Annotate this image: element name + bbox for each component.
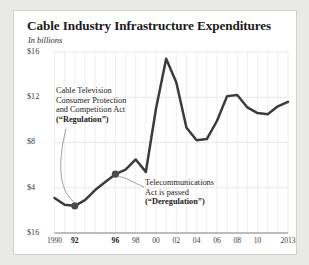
y-axis-tick: $16: [27, 47, 39, 56]
y-axis-tick: $12: [27, 92, 39, 101]
regulation-annotation-line: and Competition Act: [56, 105, 126, 115]
deregulation-leader-line: [119, 177, 144, 187]
x-axis-tick: 00: [152, 236, 160, 245]
x-axis-tick: 2013: [280, 236, 295, 245]
x-axis-tick: 02: [173, 236, 181, 245]
x-axis-tick: 92: [71, 236, 79, 245]
chart-card: Cable Industry Infrastructure Expenditur…: [13, 10, 297, 255]
regulation-annotation: Cable TelevisionConsumer Protectionand C…: [56, 86, 126, 124]
x-axis-tick: 04: [193, 236, 201, 245]
deregulation-annotation-line: Act is passed: [145, 188, 214, 198]
y-axis-tick: $16: [27, 228, 39, 237]
regulation-annotation-line: Cable Television: [56, 86, 126, 96]
y-axis-tick: $8: [27, 137, 35, 146]
x-axis-tick: 1990: [47, 236, 62, 245]
x-axis-tick: 08: [233, 236, 241, 245]
deregulation-annotation: TelecommunicationsAct is passed(“Deregul…: [145, 178, 214, 207]
x-axis-tick: 96: [112, 236, 120, 245]
regulation-annotation-line: Consumer Protection: [56, 96, 126, 106]
x-axis-tick: 06: [213, 236, 221, 245]
regulation-leader-line: [61, 129, 74, 202]
deregulation-annotation-line: (“Deregulation”): [145, 197, 214, 207]
deregulation-annotation-line: Telecommunications: [145, 178, 214, 188]
x-axis-tick: 98: [132, 236, 140, 245]
line-chart: [14, 11, 297, 255]
y-axis-tick: $4: [27, 183, 35, 192]
regulation-annotation-line: (“Regulation”): [56, 115, 126, 125]
x-axis-tick: 10: [254, 236, 262, 245]
